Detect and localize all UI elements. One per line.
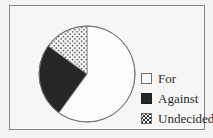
legend-swatch-against <box>141 93 152 104</box>
legend-swatch-undecided <box>141 113 152 124</box>
chart-frame: For Against Undecided <box>9 5 205 130</box>
pie-svg <box>37 24 137 124</box>
legend-item-for: For <box>141 68 213 88</box>
legend-label-against: Against <box>158 92 198 105</box>
legend-swatch-for <box>141 73 152 84</box>
legend-label-undecided: Undecided <box>158 112 213 125</box>
legend-item-undecided: Undecided <box>141 108 213 128</box>
scanned-page: For Against Undecided <box>0 0 213 138</box>
legend-label-for: For <box>158 72 176 85</box>
pie-chart-figure <box>37 24 137 124</box>
legend-item-against: Against <box>141 88 213 108</box>
legend: For Against Undecided <box>141 68 213 128</box>
